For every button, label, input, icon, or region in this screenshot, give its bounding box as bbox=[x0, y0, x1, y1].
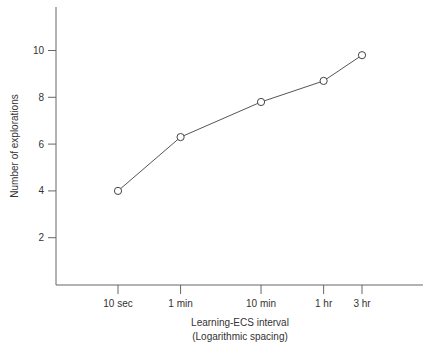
y-ticks: 246810 bbox=[33, 45, 56, 243]
data-point-marker bbox=[177, 133, 184, 140]
x-tick-label: 10 sec bbox=[103, 298, 132, 309]
data-point-marker bbox=[358, 52, 365, 59]
x-tick-label: 1 hr bbox=[315, 298, 333, 309]
y-axis-title: Number of explorations bbox=[9, 94, 20, 197]
data-point-marker bbox=[320, 77, 327, 84]
line-chart: 246810 10 sec1 min10 min1 hr3 hr Number … bbox=[0, 0, 434, 351]
y-tick-label: 6 bbox=[38, 139, 44, 150]
y-tick-label: 10 bbox=[33, 45, 45, 56]
data-point-marker bbox=[257, 98, 264, 105]
y-tick-label: 2 bbox=[38, 232, 44, 243]
x-tick-label: 3 hr bbox=[353, 298, 371, 309]
data-point-marker bbox=[114, 187, 121, 194]
axes bbox=[56, 7, 423, 285]
x-axis-subtitle: (Logarithmic spacing) bbox=[192, 331, 288, 342]
x-axis-title: Learning-ECS interval bbox=[191, 317, 289, 328]
y-tick-label: 4 bbox=[38, 185, 44, 196]
x-tick-label: 1 min bbox=[168, 298, 192, 309]
x-tick-label: 10 min bbox=[246, 298, 276, 309]
y-tick-label: 8 bbox=[38, 92, 44, 103]
data-series bbox=[114, 52, 365, 195]
x-ticks: 10 sec1 min10 min1 hr3 hr bbox=[103, 285, 371, 309]
series-line bbox=[118, 55, 362, 191]
